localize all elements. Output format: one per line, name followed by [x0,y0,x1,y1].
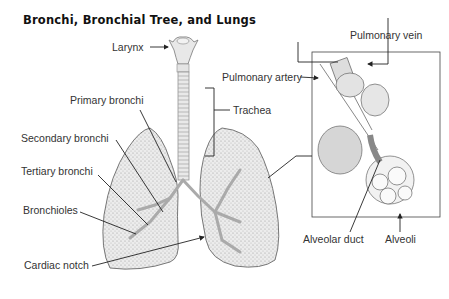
label-pulmonary-vein: Pulmonary vein [350,29,422,41]
inset-connector [268,156,312,178]
left-lung-drawing [200,128,279,267]
label-primary-bronchi: Primary bronchi [70,94,144,106]
label-secondary-bronchi: Secondary bronchi [21,132,109,144]
trachea-drawing [178,72,189,180]
label-pulmonary-artery: Pulmonary artery [222,71,302,83]
label-alveoli: Alveoli [385,233,416,245]
label-alveolar-duct: Alveolar duct [303,233,364,245]
label-larynx: Larynx [112,41,144,53]
larynx-drawing [169,37,198,72]
label-bronchioles: Bronchioles [23,204,78,216]
anatomy-illustration [0,0,449,299]
label-cardiac-notch: Cardiac notch [24,259,89,271]
label-trachea: Trachea [233,104,271,116]
label-tertiary-bronchi: Tertiary bronchi [21,165,93,177]
